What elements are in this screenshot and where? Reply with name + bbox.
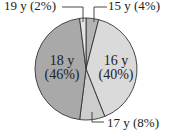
label-16y-pct: (40%) bbox=[99, 67, 134, 83]
label-16y-name: 16 y bbox=[104, 53, 129, 68]
label-19y: 19 y (2%) bbox=[4, 0, 56, 13]
label-17y: 17 y (8%) bbox=[107, 115, 159, 130]
label-15y: 15 y (4%) bbox=[108, 0, 160, 13]
pie-chart: 19 y (2%) 15 y (4%) 18 y (46%) 16 y (40%… bbox=[0, 0, 172, 137]
label-18y-pct: (46%) bbox=[45, 67, 80, 83]
label-18y-name: 18 y bbox=[50, 53, 75, 68]
